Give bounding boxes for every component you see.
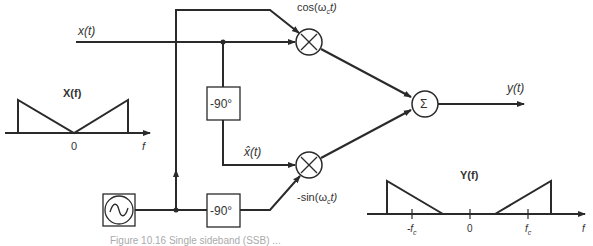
junction-dot (174, 208, 179, 213)
multiplier-top (296, 29, 322, 55)
junction-dot (221, 40, 226, 45)
input-spectrum-zero: 0 (71, 141, 77, 152)
cos-text: cos(ω (297, 1, 326, 13)
output-signal-label: y(t) (507, 82, 524, 94)
sin-text: -sin(ω (297, 191, 327, 203)
mult2-to-sum-line (321, 110, 411, 158)
input-signal-label: x(t) (78, 25, 95, 37)
mult1-to-sum-line (321, 49, 411, 97)
output-spectrum-axis: f (582, 224, 585, 234)
pos-fc-label: fc (525, 224, 531, 236)
sin-carrier-line (240, 176, 300, 210)
input-spectrum-axis: f (142, 141, 145, 152)
output-spectrum-zero: 0 (467, 224, 473, 234)
sin-tail: t) (330, 191, 337, 203)
phase-shift-label-bottom: -90° (210, 205, 232, 217)
multiplier-bottom (296, 152, 322, 178)
neg-fc-subscript: c (413, 229, 417, 236)
output-spectrum-title: Y(f) (460, 170, 478, 181)
summer-label: Σ (420, 98, 427, 110)
sin-carrier-label: -sin(ωct) (297, 192, 337, 205)
phase-shift-label-top: -90° (210, 98, 232, 110)
input-spectrum-title: X(f) (63, 88, 81, 99)
oscillator-icon (103, 194, 135, 226)
output-spectrum-chart (367, 181, 585, 219)
figure-caption: Figure 10.16 Single sideband (SSB) ... (110, 236, 281, 246)
cos-carrier-label: cos(ωct) (297, 2, 337, 15)
cos-tail: t) (330, 1, 337, 13)
hilbert-signal-label: x̂(t) (244, 146, 261, 158)
input-spectrum-chart (5, 100, 150, 133)
pos-fc-subscript: c (528, 229, 532, 236)
neg-fc-label: -fc (407, 224, 417, 236)
